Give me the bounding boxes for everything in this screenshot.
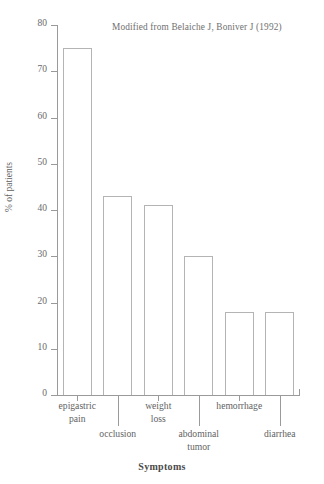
plot-area: 01020304050607080 bbox=[57, 25, 300, 396]
y-axis-tick-label: 30 bbox=[38, 249, 48, 259]
y-axis-tick-label: 10 bbox=[38, 342, 48, 352]
y-axis-tick-label: 0 bbox=[42, 388, 47, 398]
y-axis-tick-label: 80 bbox=[38, 18, 48, 28]
x-axis-category-label: occlusion bbox=[99, 428, 136, 441]
y-axis-tick: 40 bbox=[51, 210, 58, 211]
category-leader-line bbox=[280, 395, 281, 426]
x-axis-line bbox=[57, 395, 300, 396]
y-axis-tick: 10 bbox=[51, 349, 58, 350]
x-axis-category-label: hemorrhage bbox=[216, 400, 262, 413]
x-axis-category-label: epigastricpain bbox=[59, 400, 96, 425]
x-axis-end-tick bbox=[299, 389, 300, 396]
x-axis-category-label: abdominaltumor bbox=[179, 428, 220, 453]
x-axis-title: Symptoms bbox=[0, 461, 324, 472]
y-axis-tick: 30 bbox=[51, 256, 58, 257]
bar bbox=[144, 205, 173, 395]
bar bbox=[63, 48, 92, 395]
bar bbox=[265, 312, 294, 395]
chart-figure: Modified from Belaiche J, Boniver J (199… bbox=[0, 0, 324, 484]
y-axis-tick-label: 20 bbox=[38, 296, 48, 306]
category-leader-line bbox=[199, 395, 200, 426]
y-axis-tick-label: 40 bbox=[38, 203, 48, 213]
y-axis-tick-label: 50 bbox=[38, 157, 48, 167]
bar bbox=[225, 312, 254, 395]
category-leader-line bbox=[118, 395, 119, 426]
y-axis-tick-label: 60 bbox=[38, 111, 48, 121]
bar bbox=[184, 256, 213, 395]
y-axis-title: % of patients bbox=[4, 142, 14, 232]
x-axis-category-label: diarrhea bbox=[264, 428, 295, 441]
y-axis-tick: 80 bbox=[51, 25, 58, 26]
y-axis-tick: 50 bbox=[51, 164, 58, 165]
y-axis-tick: 60 bbox=[51, 118, 58, 119]
bar bbox=[103, 196, 132, 395]
y-axis-tick: 70 bbox=[51, 71, 58, 72]
x-axis-category-label: weightloss bbox=[145, 400, 171, 425]
y-axis-tick: 20 bbox=[51, 303, 58, 304]
y-axis-tick-label: 70 bbox=[38, 64, 48, 74]
y-axis-tick: 0 bbox=[51, 395, 58, 396]
